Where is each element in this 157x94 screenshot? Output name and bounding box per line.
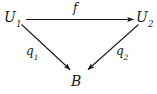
object-label-u1: U1 xyxy=(4,10,21,27)
object-label-u2: U2 xyxy=(136,10,153,27)
morphism-label-q1: q1 xyxy=(26,45,38,60)
object-label-b: B xyxy=(71,74,81,91)
morphism-label-f: f xyxy=(73,2,77,17)
morphism-label-q2: q2 xyxy=(116,45,128,60)
commutative-diagram: U1 U2 B f q1 q2 xyxy=(0,0,157,94)
arrow-q2 xyxy=(88,25,139,70)
